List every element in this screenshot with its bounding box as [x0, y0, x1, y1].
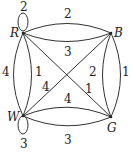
node-W-dot	[22, 115, 25, 118]
weight-R-G: 1	[85, 82, 93, 96]
edge-R-R-loop	[18, 13, 28, 31]
node-R-dot	[22, 32, 25, 35]
node-B-label: B	[113, 26, 123, 40]
edge-R-B-lower	[23, 33, 111, 42]
edge-R-B-upper	[23, 24, 111, 34]
weight-R-W-inner: 1	[35, 65, 43, 79]
node-G-label: G	[107, 121, 117, 135]
node-R-label: R	[9, 26, 19, 40]
weight-R-B-lower: 3	[64, 45, 72, 59]
weight-W-B: 4	[42, 80, 50, 94]
edge-R-W-inner	[23, 33, 32, 116]
weight-R-W-outer: 4	[2, 65, 10, 79]
edge-B-G-inner	[103, 33, 112, 117]
edge-B-G-outer	[111, 33, 121, 117]
weight-R-B-upper: 2	[64, 7, 72, 21]
node-B-dot	[110, 32, 113, 35]
weight-W-G-lower: 3	[64, 133, 72, 147]
node-W-label: W	[7, 110, 21, 124]
node-G-dot	[110, 116, 113, 119]
weight-B-G-outer: 1	[122, 65, 130, 79]
edge-W-G-lower	[23, 116, 111, 126]
weight-W-G-upper: 4	[64, 92, 72, 106]
weight-W-W: 3	[20, 137, 28, 151]
weight-B-G-inner: 2	[89, 65, 97, 79]
edge-W-W-loop	[18, 116, 28, 134]
weight-R-R: 2	[20, 0, 28, 14]
edge-W-G-upper	[23, 107, 111, 117]
graph-svg: R B W G 2 2 3 4 1 1 4 2 1 4 3 3	[0, 0, 133, 152]
edge-R-W-outer	[14, 33, 24, 116]
graph-diagram: R B W G 2 2 3 4 1 1 4 2 1 4 3 3	[0, 0, 133, 152]
